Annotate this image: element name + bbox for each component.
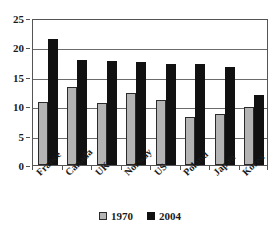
bar-canada-1970 <box>67 87 77 165</box>
y-tick-mark <box>26 166 30 167</box>
y-tick-mark <box>26 19 30 20</box>
bar-uk-1970 <box>97 103 107 165</box>
bar-group <box>97 20 117 165</box>
legend-label: 1970 <box>111 210 133 222</box>
legend: 19702004 <box>0 210 280 222</box>
legend-swatch-icon <box>99 212 107 220</box>
y-tick-mark <box>26 107 30 108</box>
bar-group <box>126 20 146 165</box>
y-tick-label: 15 <box>13 72 24 84</box>
plot-area <box>32 19 268 166</box>
bar-group <box>185 20 205 165</box>
y-tick-mark <box>26 48 30 49</box>
bar-uk-2004 <box>107 61 117 165</box>
y-tick-label: 10 <box>13 101 24 113</box>
bar-group <box>244 20 264 165</box>
y-tick-label: 0 <box>19 160 25 172</box>
bar-us-1970 <box>156 100 166 165</box>
bar-group <box>38 20 58 165</box>
y-tick-mark <box>26 78 30 79</box>
bar-chart: 0510152025 FranceCanadaUKNorwayUSPolandJ… <box>0 0 280 233</box>
legend-label: 2004 <box>159 210 181 222</box>
bar-group <box>215 20 235 165</box>
bar-group <box>156 20 176 165</box>
bar-norway-1970 <box>126 93 136 165</box>
legend-item-1970[interactable]: 1970 <box>99 210 133 222</box>
y-tick-label: 20 <box>13 42 24 54</box>
y-axis: 0510152025 <box>0 19 30 166</box>
bars-layer <box>33 20 267 165</box>
bar-france-1970 <box>38 102 48 166</box>
bar-france-2004 <box>48 39 58 165</box>
bar-us-2004 <box>166 64 176 165</box>
legend-item-2004[interactable]: 2004 <box>147 210 181 222</box>
y-tick-label: 5 <box>19 131 25 143</box>
bar-japan-2004 <box>225 67 235 165</box>
bar-group <box>67 20 87 165</box>
y-tick-label: 25 <box>13 13 24 25</box>
x-axis-labels: FranceCanadaUKNorwayUSPolandJapanKorea <box>32 170 268 208</box>
legend-swatch-icon <box>147 212 155 220</box>
y-tick-mark <box>26 137 30 138</box>
